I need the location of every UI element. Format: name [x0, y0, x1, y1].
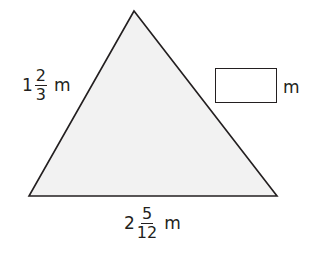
side-denominator: 3: [36, 86, 46, 103]
side-fraction: 2 3: [35, 68, 47, 103]
side-whole: 1: [22, 77, 33, 94]
base-unit: m: [164, 215, 181, 232]
answer-unit: m: [283, 77, 300, 97]
base-whole: 2: [124, 215, 135, 232]
answer-input-box[interactable]: [215, 68, 277, 103]
side-unit: m: [54, 77, 71, 94]
side-numerator: 2: [35, 68, 47, 86]
base-denominator: 12: [137, 224, 157, 241]
base-length-label: 2 5 12 m: [124, 206, 181, 241]
base-numerator: 5: [141, 206, 153, 224]
base-fraction: 5 12: [137, 206, 157, 241]
triangle: [29, 11, 277, 196]
side-length-label: 1 2 3 m: [22, 68, 71, 103]
